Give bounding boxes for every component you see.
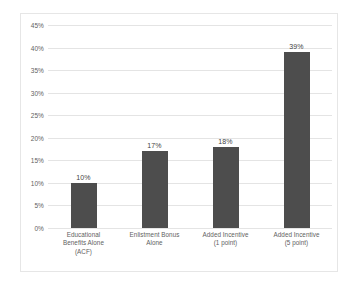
y-axis-tick-label: 15% xyxy=(31,157,44,164)
y-axis-tick-label: 20% xyxy=(31,134,44,141)
bar-slot: 10%EducationalBenefits Alone(ACF) xyxy=(48,25,119,228)
y-axis-tick-label: 35% xyxy=(31,67,44,74)
y-axis-tick-label: 25% xyxy=(31,112,44,119)
x-axis-category-line: Added Incentive xyxy=(262,231,332,239)
bar[interactable] xyxy=(284,52,310,228)
bar-slot: 18%Added Incentive(1 point) xyxy=(190,25,261,228)
x-axis-category-line: Added Incentive xyxy=(191,231,261,239)
x-axis-category-line: (ACF) xyxy=(49,248,119,256)
x-axis-category-line: Alone xyxy=(120,239,190,247)
y-axis-tick-label: 40% xyxy=(31,44,44,51)
chart-frame: 0%5%10%15%20%25%30%35%40%45% 10%Educatio… xyxy=(20,13,338,272)
y-axis-tick-label: 0% xyxy=(34,225,44,232)
bar-value-label: 17% xyxy=(147,142,161,149)
x-axis-category-line: Benefits Alone xyxy=(49,239,119,247)
y-axis-tick-label: 10% xyxy=(31,179,44,186)
x-axis-category-line: Enlistment Bonus xyxy=(120,231,190,239)
bar-slot: 39%Added Incentive(5 point) xyxy=(261,25,332,228)
bar[interactable] xyxy=(71,183,97,228)
bar[interactable] xyxy=(142,151,168,228)
bar-value-label: 18% xyxy=(218,138,232,145)
y-axis-tick-label: 45% xyxy=(31,22,44,29)
y-axis-tick-label: 30% xyxy=(31,89,44,96)
gridline xyxy=(48,228,332,229)
x-axis-category-label: Enlistment BonusAlone xyxy=(120,231,190,248)
bar-slot: 17%Enlistment BonusAlone xyxy=(119,25,190,228)
y-axis-tick-label: 5% xyxy=(34,202,44,209)
bars-group: 10%EducationalBenefits Alone(ACF)17%Enli… xyxy=(48,25,332,228)
plot-area: 0%5%10%15%20%25%30%35%40%45% 10%Educatio… xyxy=(48,25,332,228)
x-axis-category-label: Added Incentive(5 point) xyxy=(262,231,332,248)
x-axis-category-line: (1 point) xyxy=(191,239,261,247)
x-axis-category-label: EducationalBenefits Alone(ACF) xyxy=(49,231,119,256)
bar-value-label: 39% xyxy=(289,43,303,50)
bar[interactable] xyxy=(213,147,239,228)
x-axis-category-label: Added Incentive(1 point) xyxy=(191,231,261,248)
bar-chart-figure: 0%5%10%15%20%25%30%35%40%45% 10%Educatio… xyxy=(0,0,355,291)
bar-value-label: 10% xyxy=(76,174,90,181)
x-axis-category-line: (5 point) xyxy=(262,239,332,247)
x-axis-category-line: Educational xyxy=(49,231,119,239)
